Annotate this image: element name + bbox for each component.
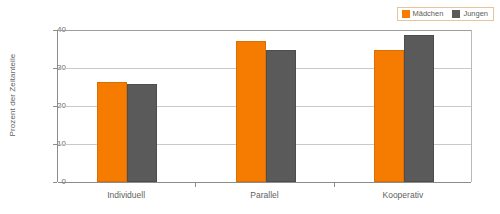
bar-group-kooperativ <box>374 30 434 182</box>
legend-label-madchen: Mädchen <box>413 10 444 18</box>
x-tick-mark-2 <box>334 182 335 187</box>
y-tick-mark-0 <box>53 182 57 183</box>
legend-item-madchen: Mädchen <box>402 10 444 18</box>
x-tick-mark-1 <box>195 182 196 187</box>
bar-parallel-jungen[interactable] <box>266 50 296 182</box>
x-tick-label-individuell: Individuell <box>66 190 186 200</box>
gridline-0 <box>58 182 471 183</box>
x-tick-label-parallel: Parallel <box>205 190 325 200</box>
chart-legend: Mädchen Jungen <box>397 7 494 21</box>
legend-swatch-jungen <box>452 10 460 18</box>
bar-kooperativ-madchen[interactable] <box>374 50 404 182</box>
bar-chart: Mädchen Jungen Prozent der Zeitanteile 0… <box>0 0 500 214</box>
legend-label-jungen: Jungen <box>463 10 488 18</box>
bar-parallel-madchen[interactable] <box>236 41 266 182</box>
legend-swatch-madchen <box>402 10 410 18</box>
bar-individuell-jungen[interactable] <box>127 84 157 182</box>
y-axis-title: Prozent der Zeitanteile <box>6 4 20 186</box>
x-tick-label-kooperativ: Kooperativ <box>343 190 463 200</box>
bar-group-parallel <box>236 30 296 182</box>
bar-individuell-madchen[interactable] <box>97 82 127 182</box>
legend-item-jungen: Jungen <box>452 10 488 18</box>
plot-area <box>57 30 472 182</box>
bar-group-individuell <box>97 30 157 182</box>
bar-kooperativ-jungen[interactable] <box>404 35 434 182</box>
